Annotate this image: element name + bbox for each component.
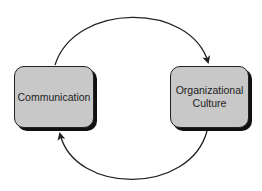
arrow-communication-to-culture xyxy=(55,17,208,65)
arrow-culture-to-communication xyxy=(60,131,207,179)
node-label: Organizational Culture xyxy=(176,84,244,110)
node-label: Communication xyxy=(18,91,91,104)
node-organizational-culture: Organizational Culture xyxy=(170,66,249,128)
node-communication: Communication xyxy=(14,66,94,128)
